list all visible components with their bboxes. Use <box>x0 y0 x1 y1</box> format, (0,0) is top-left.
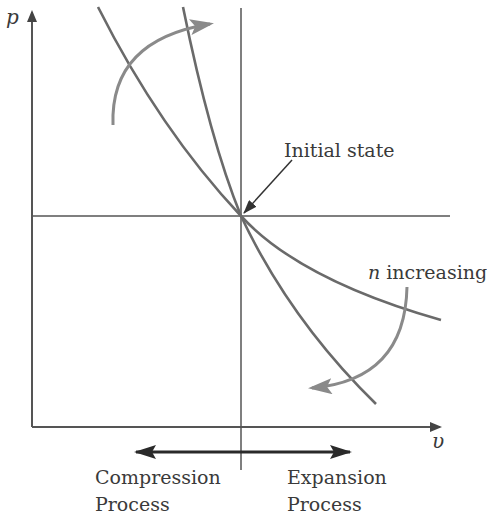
y-axis-label: p <box>6 6 19 28</box>
initial-state-pointer <box>244 160 292 213</box>
n-increasing-arrow-bottom <box>312 287 407 388</box>
axes <box>32 12 440 427</box>
initial-state-label: Initial state <box>284 140 395 161</box>
increasing-text: increasing <box>380 261 487 283</box>
compression-process-label: Compression Process <box>95 464 221 518</box>
x-axis-label: υ <box>432 430 444 452</box>
n-increasing-label: n increasing <box>368 262 487 283</box>
expansion-process-label: Expansion Process <box>287 464 387 518</box>
process-curve-steep <box>183 7 376 404</box>
n-increasing-arrow-top <box>113 24 210 125</box>
n-symbol: n <box>368 261 380 283</box>
